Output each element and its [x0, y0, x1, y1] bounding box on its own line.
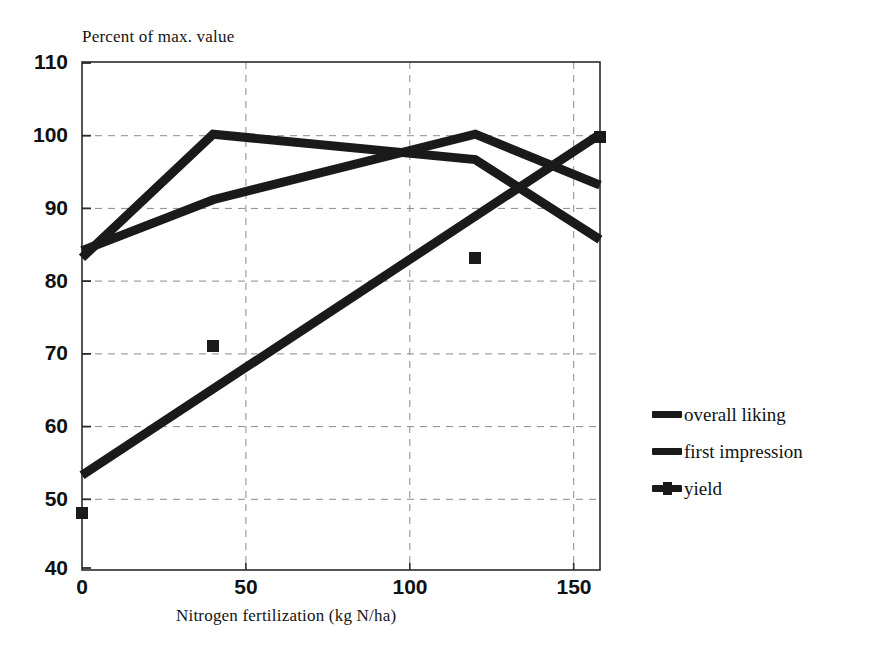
legend-swatch-overall-liking — [652, 411, 682, 418]
x-axis-label: Nitrogen fertilization (kg N/ha) — [176, 606, 396, 626]
legend-item-overall-liking[interactable]: overall liking — [652, 405, 786, 424]
y-tick-label-100: 100 — [8, 123, 68, 147]
x-axis-ticks — [246, 563, 574, 570]
x-tick-label-150: 150 — [544, 575, 604, 599]
legend-item-yield[interactable]: yield — [652, 479, 722, 498]
y-tick-label-60: 60 — [8, 414, 68, 438]
legend-swatch-first-impression — [652, 448, 682, 455]
figure-canvas: Percent of max. value — [0, 0, 871, 661]
y-tick-label-70: 70 — [8, 341, 68, 365]
y-tick-label-80: 80 — [8, 269, 68, 293]
plot-frame — [82, 62, 600, 570]
legend-swatch-yield — [652, 485, 682, 492]
y-tick-label-90: 90 — [8, 196, 68, 220]
x-tick-label-50: 50 — [216, 575, 276, 599]
y-tick-label-50: 50 — [8, 487, 68, 511]
grid-lines — [82, 62, 600, 570]
y-tick-label-110: 110 — [8, 50, 68, 74]
x-tick-label-100: 100 — [380, 575, 440, 599]
legend-label-yield: yield — [684, 479, 722, 498]
legend-item-first-impression[interactable]: first impression — [652, 442, 803, 461]
x-tick-label-0: 0 — [52, 575, 112, 599]
legend-label-overall-liking: overall liking — [684, 405, 786, 424]
y-axis-ticks — [82, 63, 91, 568]
plot-area — [0, 0, 871, 661]
legend-label-first-impression: first impression — [684, 442, 803, 461]
